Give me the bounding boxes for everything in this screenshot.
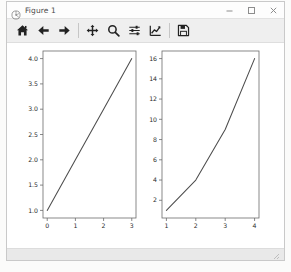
y-tick-label: 1.0 (28, 207, 38, 214)
forward-button[interactable] (54, 20, 75, 41)
close-button[interactable] (262, 2, 284, 18)
y-tick-label: 3.5 (28, 80, 38, 87)
x-tick-label: 2 (102, 222, 106, 229)
x-tick-label: 2 (194, 222, 198, 229)
left-subplot[interactable]: 1.01.52.02.53.03.54.00123 (28, 51, 136, 229)
customize-button[interactable] (145, 20, 166, 41)
data-line (166, 59, 254, 211)
y-tick-label: 2.0 (28, 156, 38, 163)
toolbar-separator (169, 23, 170, 38)
plot-area: 1.01.52.02.53.03.54.00123 24681012141612… (7, 43, 284, 248)
x-tick-label: 3 (130, 222, 134, 229)
x-tick-label: 1 (164, 222, 168, 229)
y-tick-label: 12 (149, 95, 157, 102)
magnifier-icon[interactable] (103, 20, 124, 41)
x-tick-label: 0 (45, 222, 49, 229)
figure-canvas[interactable]: 1.01.52.02.53.03.54.00123 24681012141612… (7, 43, 284, 248)
figure-window: Figure 1 (6, 1, 285, 261)
minimize-button[interactable] (218, 2, 240, 18)
window-title: Figure 1 (25, 6, 218, 15)
toolbar-separator (78, 23, 79, 38)
back-button[interactable] (33, 20, 54, 41)
y-tick-label: 2.5 (28, 131, 38, 138)
pan-button[interactable] (82, 20, 103, 41)
axes-frame (162, 51, 259, 218)
y-tick-label: 4 (153, 176, 157, 183)
x-tick-label: 3 (223, 222, 227, 229)
y-tick-label: 6 (153, 156, 157, 163)
title-bar: Figure 1 (7, 2, 284, 19)
x-tick-label: 4 (253, 222, 257, 229)
y-tick-label: 8 (153, 136, 157, 143)
x-tick-label: 1 (73, 222, 77, 229)
navigation-toolbar (7, 19, 284, 43)
y-tick-label: 4.0 (28, 55, 38, 62)
data-line (47, 59, 132, 211)
y-tick-label: 14 (149, 75, 157, 82)
resize-grip[interactable] (271, 245, 280, 264)
subplots-button[interactable] (124, 20, 145, 41)
matplotlib-icon (11, 5, 21, 15)
y-tick-label: 10 (149, 116, 157, 123)
y-tick-label: 3.0 (28, 105, 38, 112)
y-tick-label: 1.5 (28, 181, 38, 188)
right-subplot[interactable]: 2468101214161234 (149, 51, 259, 229)
status-bar (7, 248, 284, 260)
save-button[interactable] (173, 20, 194, 41)
home-button[interactable] (12, 20, 33, 41)
y-tick-label: 2 (153, 196, 157, 203)
maximize-button[interactable] (240, 2, 262, 18)
y-tick-label: 16 (149, 55, 157, 62)
